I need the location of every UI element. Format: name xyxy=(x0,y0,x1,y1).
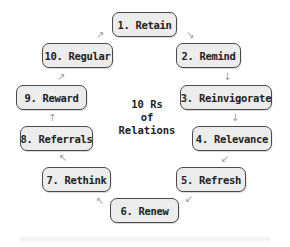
arrow-renew-to-rethink-icon: ↖ xyxy=(96,196,104,206)
node-reward: 9. Reward xyxy=(16,85,87,110)
arrow-reinvigorate-to-relevance-icon: ↓ xyxy=(231,113,239,123)
title-line-3: Relations xyxy=(112,124,182,137)
title-line-1: 10 Rs xyxy=(112,98,182,111)
arrow-rethink-to-referrals-icon: ↖ xyxy=(59,153,67,163)
arrow-retain-to-remind-icon: ↘ xyxy=(186,30,194,40)
node-regular: 10. Regular xyxy=(42,43,113,68)
node-referrals: 8. Referrals xyxy=(20,126,93,151)
title-line-2: of xyxy=(112,111,182,124)
arrow-relevance-to-refresh-icon: ↙ xyxy=(221,154,229,164)
node-remind: 2. Remind xyxy=(176,43,241,68)
arrow-refresh-to-renew-icon: ↙ xyxy=(185,194,193,204)
arrow-referrals-to-reward-icon: ↑ xyxy=(48,113,56,123)
bottom-shadow-band xyxy=(20,236,270,242)
node-reinvigorate: 3. Reinvigorate xyxy=(180,85,272,110)
node-retain: 1. Retain xyxy=(112,12,177,37)
arrow-remind-to-reinvigorate-icon: ↓ xyxy=(223,72,231,82)
diagram-title: 10 Rs of Relations xyxy=(112,98,182,137)
node-rethink: 7. Rethink xyxy=(42,167,111,192)
arrow-reward-to-regular-icon: ↗ xyxy=(57,72,65,82)
node-relevance: 4. Relevance xyxy=(192,126,272,151)
arrow-regular-to-retain-icon: ↗ xyxy=(96,30,104,40)
node-renew: 6. Renew xyxy=(110,198,179,223)
node-refresh: 5. Refresh xyxy=(176,167,246,192)
